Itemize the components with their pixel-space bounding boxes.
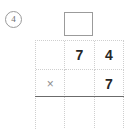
- multiplicand-row: 7 4: [36, 41, 124, 70]
- multiplier-ones-digit: 7: [95, 70, 124, 97]
- problem-number-marker: 4: [5, 11, 22, 28]
- multiplicand-tens-digit: 7: [65, 41, 94, 70]
- worksheet-problem: 4 7 4 × 7: [0, 0, 129, 129]
- multiplicand-cell-1: [36, 41, 65, 70]
- multiplication-grid: 7 4 × 7: [35, 40, 124, 129]
- product-row: [36, 97, 124, 129]
- product-cell-3[interactable]: [95, 97, 124, 129]
- multiplicand-ones-digit: 4: [95, 41, 124, 70]
- multiply-operator-icon: ×: [36, 70, 65, 97]
- answer-input-box[interactable]: [64, 12, 93, 36]
- sum-rule-divider: [35, 96, 124, 97]
- multiplier-cell-2: [65, 70, 94, 97]
- multiplier-row: × 7: [36, 70, 124, 97]
- product-cell-1[interactable]: [36, 97, 65, 129]
- product-cell-2[interactable]: [65, 97, 94, 129]
